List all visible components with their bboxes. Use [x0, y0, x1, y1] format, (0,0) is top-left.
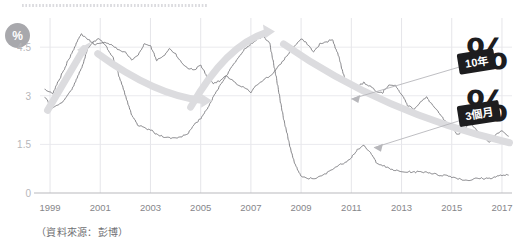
top-dotted-rule: [22, 4, 208, 7]
x-tick-label: 2003: [140, 202, 161, 213]
x-tick-label: 1999: [39, 202, 60, 213]
series-sticker-3-month: % 3個月: [452, 86, 524, 136]
interest-rate-chart: % 01.534.5 19992001200320052007200920112…: [0, 0, 531, 247]
annotation-arrowhead: [263, 25, 275, 39]
y-tick-label: 3: [25, 90, 31, 101]
x-tick-label: 2017: [491, 202, 512, 213]
x-tick-label: 2001: [90, 202, 111, 213]
y-tick-label: 4.5: [17, 42, 31, 53]
annotation-arrow: [48, 49, 84, 111]
x-tick-label: 2005: [190, 202, 211, 213]
y-tick-label: 0: [25, 188, 31, 199]
x-tick-label: 2007: [240, 202, 261, 213]
x-tick-label: 2015: [441, 202, 462, 213]
y-tick-label: 1.5: [17, 139, 31, 150]
series-sticker-10-year: % 10年: [452, 34, 524, 84]
x-tick-label: 2011: [341, 202, 361, 213]
plot-area: 01.534.5 1999200120032005200720092011201…: [40, 18, 512, 193]
chart-svg: [40, 18, 512, 193]
x-tick-label: 2009: [291, 202, 312, 213]
source-note: （資料來源：彭博）: [36, 224, 129, 239]
x-tick-label: 2013: [391, 202, 412, 213]
series-line: [45, 35, 508, 180]
